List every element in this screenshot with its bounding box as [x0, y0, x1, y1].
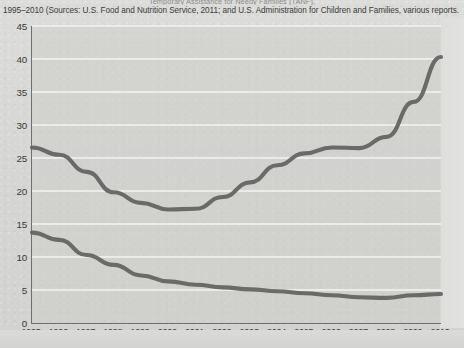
- series-line-2: [32, 233, 441, 298]
- series-svg: [32, 26, 441, 323]
- y-axis-tick-label: 15: [3, 219, 27, 230]
- y-axis-tick-label: 10: [3, 252, 27, 263]
- page-bottom-margin: [0, 330, 464, 348]
- y-axis-tick-label: 25: [3, 153, 27, 164]
- y-axis-labels: 454035302520151050: [0, 26, 27, 323]
- y-axis-tick-label: 5: [3, 285, 27, 296]
- data-lines: [32, 57, 441, 298]
- y-axis-tick-label: 35: [3, 87, 27, 98]
- y-axis-tick-label: 40: [3, 54, 27, 65]
- gridlines: [32, 26, 441, 290]
- page-right-margin: [440, 18, 464, 328]
- y-axis-tick-label: 20: [3, 186, 27, 197]
- y-axis-tick-label: 45: [3, 21, 27, 32]
- plot-area: [31, 26, 441, 324]
- series-line-1: [32, 57, 441, 209]
- figure-container: Temporary Assistance for Needy Families …: [0, 0, 464, 348]
- figure-title-partial: Temporary Assistance for Needy Families …: [0, 0, 464, 5]
- y-axis-tick-label: 30: [3, 120, 27, 131]
- figure-caption: 1995–2010 (Sources: U.S. Food and Nutrit…: [3, 6, 459, 15]
